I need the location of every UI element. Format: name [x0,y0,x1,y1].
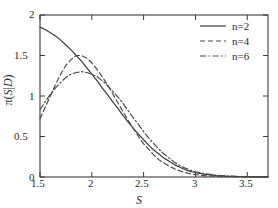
y-axis-title-s: S [1,90,15,96]
y-axis-title-bar: | [1,87,15,89]
x-tick-label-2: 2.5 [135,177,149,189]
y-axis-title-close: ) [1,74,15,78]
x-tick-label-4: 3.5 [239,177,253,189]
legend-entry-1: n=4 [200,34,249,48]
legend-entry-0: n=2 [200,19,249,33]
legend-label-0: n=2 [232,20,249,32]
y-tick-label-2: 1 [29,90,35,102]
legend-entry-2: n=6 [200,49,249,63]
y-axis-title-open: ( [1,96,15,100]
legend-label-1: n=4 [232,35,249,47]
y-axis-title-d: D [1,78,15,87]
x-tick-label-0: 1.5 [31,177,45,189]
x-tick-label-3: 3 [192,177,198,189]
legend-line-dashed-icon [200,36,226,46]
legend-line-dashdot-icon [200,51,226,61]
y-axis-title-pi: π [1,100,15,106]
y-axis-title: π(S|D) [0,60,18,120]
legend-line-solid-icon [200,21,226,31]
legend-label-2: n=6 [232,50,249,62]
chart-figure: 0 0.5 1 1.5 2 1.5 2 2.5 3 3.5 π(S|D) S n… [0,0,278,208]
x-axis-title-text: S [136,193,142,207]
y-tick-label-4: 2 [29,8,35,20]
x-tick-label-1: 2 [88,177,94,189]
x-axis-title: S [0,190,278,208]
y-tick-label-1: 0.5 [14,130,28,142]
curve-n=6 [40,72,268,177]
